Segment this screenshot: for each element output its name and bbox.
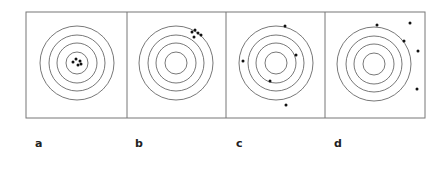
target-ring [57,43,97,83]
shot-dot [77,64,80,67]
shot-dot [75,58,78,61]
target-ring [165,52,187,74]
target-ring [363,53,385,75]
shot-dot [194,29,197,32]
shot-dot [403,40,406,43]
target-ring [139,26,213,100]
shot-dot [191,31,194,34]
shot-dot [197,32,200,35]
shot-dot [72,61,75,64]
target-ring [49,35,105,91]
label-a: a [35,137,42,150]
label-c: c [236,137,243,150]
target-ring [354,44,394,84]
shot-dot [417,50,420,53]
target-panel-a [40,26,114,100]
target-ring [256,43,296,83]
target-ring [40,26,114,100]
shot-dot [242,60,245,63]
target-panel-c [226,12,313,118]
shot-dot [376,24,379,27]
shot-dot [284,25,287,28]
target-panel-b [127,12,213,118]
shot-dot [285,104,288,107]
targets-figure [0,0,445,173]
shot-dot [269,80,272,83]
target-ring [156,43,196,83]
target-ring [239,26,313,100]
shot-dot [200,34,203,37]
target-ring [66,52,88,74]
label-b: b [135,137,143,150]
shot-dot [416,88,419,91]
shot-dot [295,54,298,57]
label-d: d [334,137,342,150]
target-ring [265,52,287,74]
shot-dot [409,22,412,25]
target-panel-d [325,12,420,118]
target-ring [337,27,411,101]
shot-dot [80,63,83,66]
shot-dot [79,60,82,63]
shot-dot [193,36,196,39]
